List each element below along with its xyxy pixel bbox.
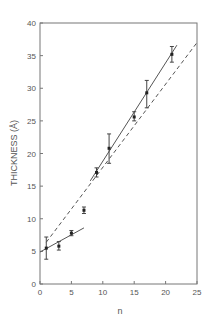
y-tick-label: 0 [32, 280, 37, 289]
data-point [82, 207, 86, 214]
y-tick-label: 25 [27, 117, 36, 126]
dashed-fit-line [46, 43, 197, 243]
point-marker [95, 171, 98, 174]
x-tick-label: 0 [38, 288, 43, 297]
y-tick-label: 20 [27, 150, 36, 159]
x-tick-label: 10 [98, 288, 107, 297]
data-point [69, 230, 73, 235]
data-point [170, 46, 174, 62]
point-marker [70, 232, 73, 235]
point-marker [133, 115, 136, 118]
solid-fit-line [90, 45, 177, 181]
y-axis-ticks: 0510152025303540 [27, 19, 43, 289]
y-tick-label: 30 [27, 84, 36, 93]
data-point [107, 134, 111, 163]
point-marker [82, 209, 85, 212]
x-axis-label: n [117, 306, 122, 316]
x-tick-label: 25 [193, 288, 202, 297]
x-tick-label: 15 [130, 288, 139, 297]
thickness-chart: 0510152025303540 0510152025 THICKNESS (Å… [0, 0, 213, 330]
x-tick-label: 20 [161, 288, 170, 297]
point-marker [145, 91, 148, 94]
point-marker [108, 147, 111, 150]
data-points [44, 46, 174, 259]
y-tick-label: 5 [32, 247, 37, 256]
y-tick-label: 35 [27, 52, 36, 61]
data-point [132, 112, 136, 121]
x-tick-label: 5 [69, 288, 74, 297]
data-point [145, 80, 149, 107]
point-marker [45, 247, 48, 250]
y-tick-label: 10 [27, 215, 36, 224]
point-marker [170, 53, 173, 56]
x-axis-ticks: 0510152025 [38, 281, 202, 297]
y-axis-label: THICKNESS (Å) [9, 120, 19, 186]
y-tick-label: 15 [27, 182, 36, 191]
point-marker [57, 245, 60, 248]
y-tick-label: 40 [27, 19, 36, 28]
fit-lines [40, 43, 197, 252]
